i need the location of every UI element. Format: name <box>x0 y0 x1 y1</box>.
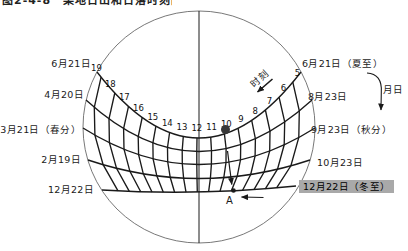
hour-number-12: 12 <box>190 123 204 133</box>
hour-number-11: 11 <box>205 122 219 132</box>
hour-line-8 <box>243 120 256 190</box>
left-date-jun21: 6月21日 <box>51 58 91 70</box>
hour-number-16: 16 <box>132 103 146 113</box>
date-axis-label: 月日 <box>383 82 403 96</box>
hour-number-19: 19 <box>89 63 103 73</box>
hour-line-18 <box>109 93 129 191</box>
winter-solstice-highlight: 12月22日（冬至） <box>299 180 394 193</box>
left-date-mar21-spring-equinox: 3月21日（春分） <box>0 124 81 136</box>
hour-number-14: 14 <box>160 118 174 128</box>
hour-number-5: 5 <box>291 68 305 78</box>
point-a-label: A <box>226 195 233 206</box>
hour-number-17: 17 <box>117 92 131 102</box>
left-date-dec22: 12月22日 <box>48 184 94 196</box>
hour-number-8: 8 <box>248 106 262 116</box>
left-date-feb19: 2月19日 <box>41 154 81 166</box>
hour-line-6 <box>265 97 284 189</box>
right-date-aug23: 8月23日 <box>308 91 348 103</box>
right-date-oct23: 10月23日 <box>317 157 363 169</box>
hour-line-5 <box>277 82 300 188</box>
sun-position-dot <box>221 125 230 134</box>
sun-time-diagram: 图2-4-8 某地日出和日落时刻图 6月21日 4月20日 3月21日（春分） … <box>0 0 408 251</box>
hour-line-12 <box>197 138 198 192</box>
right-date-dec22-winter-solstice: 12月22日（冬至） <box>299 181 394 193</box>
down-arrow-to-a <box>228 151 232 185</box>
hour-number-15: 15 <box>146 112 160 122</box>
left-arrow-to-a <box>242 197 264 198</box>
hour-number-6: 6 <box>277 83 291 93</box>
right-date-jun21-summer-solstice: 6月21日（夏至） <box>302 58 383 70</box>
hour-number-9: 9 <box>234 114 248 124</box>
left-date-apr20: 4月20日 <box>44 89 84 101</box>
right-date-sep23-autumn-equinox: 9月23日（秋分） <box>311 124 392 136</box>
point-a-marker <box>231 188 236 193</box>
date-axis-arrow <box>367 73 381 110</box>
hour-number-7: 7 <box>263 96 277 106</box>
hour-number-18: 18 <box>103 79 117 89</box>
hour-line-7 <box>254 110 270 190</box>
hour-number-13: 13 <box>175 122 189 132</box>
